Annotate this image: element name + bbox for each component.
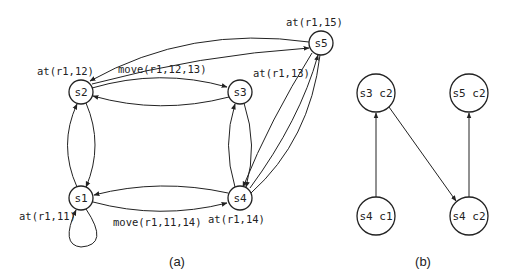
edge-label-move-12-13: move(r1,12,13) [118, 63, 207, 75]
caption-a: (a) [169, 254, 185, 269]
edge-s3-s2 [93, 96, 229, 106]
node-s3-label: s3 [233, 86, 246, 99]
node-s1-label: s1 [74, 192, 87, 205]
node-s4-c1-label: s4 c1 [359, 210, 392, 223]
state-label-s1: at(r1,11) [19, 210, 76, 222]
state-label-s5: at(r1,15) [286, 16, 343, 28]
edge-s3c2-s4c2 [389, 107, 456, 201]
edge-s2-s3 [92, 78, 227, 88]
node-s3: s3 [228, 80, 252, 104]
node-s4-c2-label: s4 c2 [452, 210, 485, 223]
edge-s4-s3 [229, 104, 236, 187]
node-s1: s1 [69, 186, 93, 210]
edge-label-move-11-14: move(r1,11,14) [113, 216, 202, 228]
edge-s4-s1 [94, 186, 228, 195]
state-label-s2: at(r1,12) [37, 65, 94, 77]
node-s4: s4 [228, 186, 252, 210]
state-label-s4: at(r1,14) [208, 213, 265, 225]
node-s4-label: s4 [233, 192, 247, 205]
node-s3-c2-label: s3 c2 [359, 87, 392, 100]
node-s4-c1: s4 c1 [357, 197, 395, 235]
caption-b: (b) [415, 254, 431, 269]
state-label-s3: at(r1,13) [253, 67, 310, 79]
node-s5-c2-label: s5 c2 [452, 87, 485, 100]
node-s4-c2: s4 c2 [450, 197, 488, 235]
edge-s1-s4 [93, 202, 227, 211]
node-s5: s5 [309, 31, 333, 55]
edge-s1-s2 [68, 104, 78, 187]
edge-s2-s1 [86, 103, 95, 187]
node-s2: s2 [69, 80, 93, 104]
node-s5-c2: s5 c2 [450, 74, 488, 112]
node-s5-label: s5 [314, 37, 327, 50]
node-s3-c2: s3 c2 [357, 74, 395, 112]
state-transition-diagram: s2 s3 s5 s1 s4 at(r1,12) at(r1,13) at(r1… [0, 0, 508, 280]
figure-b-edges [376, 107, 469, 201]
node-s2-label: s2 [74, 86, 87, 99]
